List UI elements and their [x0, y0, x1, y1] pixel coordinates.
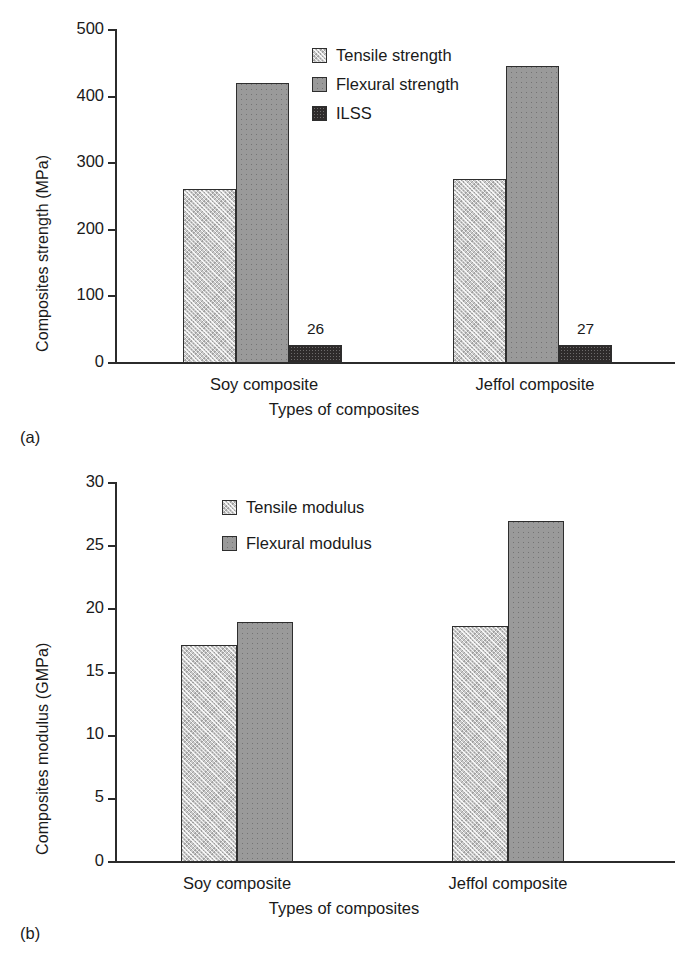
y-tick-0b — [108, 861, 116, 863]
y-tick-label-0b: 0 — [55, 851, 104, 870]
bar-value-label-soy-ilss: 26 — [289, 320, 342, 338]
bar-soy-flexural-modulus — [237, 622, 293, 862]
y-tick-300 — [108, 162, 116, 164]
bar-jeffol-flexural-modulus — [508, 521, 564, 862]
legend-label-ilss: ILSS — [336, 105, 372, 122]
y-axis-line-a — [115, 29, 117, 364]
bar-jeffol-ilss — [559, 345, 612, 363]
legend-item-flexural-strength[interactable]: Flexural strength — [312, 73, 459, 95]
figure-a-strength-chart: Composites strength (MPa) 500 400 300 20… — [0, 0, 688, 470]
bar-soy-tensile-modulus — [181, 645, 237, 862]
legend-a: Tensile strength Flexural strength ILSS — [312, 44, 459, 131]
bar-jeffol-tensile-strength — [453, 179, 506, 363]
y-tick-label-400: 400 — [50, 86, 104, 105]
y-tick-label-10: 10 — [55, 724, 104, 743]
x-category-label-soy-a: Soy composite — [180, 375, 348, 394]
bar-soy-ilss — [289, 345, 342, 363]
y-tick-label-15: 15 — [55, 661, 104, 680]
figure-b-modulus-chart: Composites modulus (GMPa) 30 25 20 15 10… — [0, 455, 688, 974]
legend-label-tensile-strength: Tensile strength — [336, 47, 452, 64]
legend-label-flexural-modulus: Flexural modulus — [246, 535, 372, 552]
x-category-label-soy-b: Soy composite — [153, 874, 321, 893]
y-tick-label-5: 5 — [55, 787, 104, 806]
panel-tag-b: (b) — [20, 924, 40, 943]
panel-tag-a: (a) — [20, 428, 40, 447]
y-tick-20 — [108, 608, 116, 610]
x-axis-title-a: Types of composites — [0, 400, 688, 419]
y-tick-label-0: 0 — [50, 352, 104, 371]
y-tick-30 — [108, 482, 116, 484]
legend-item-ilss[interactable]: ILSS — [312, 102, 459, 124]
y-tick-label-30: 30 — [55, 472, 104, 491]
bar-jeffol-flexural-strength — [506, 66, 559, 363]
legend-swatch-ilss — [312, 106, 327, 121]
legend-swatch-flexural-strength — [312, 77, 327, 92]
y-tick-200 — [108, 229, 116, 231]
y-tick-25 — [108, 545, 116, 547]
y-tick-100 — [108, 295, 116, 297]
legend-item-flexural-modulus[interactable]: Flexural modulus — [222, 532, 372, 554]
x-axis-title-b: Types of composites — [0, 899, 688, 918]
y-tick-15 — [108, 672, 116, 674]
legend-label-flexural-strength: Flexural strength — [336, 76, 459, 93]
y-tick-400 — [108, 96, 116, 98]
legend-item-tensile-modulus[interactable]: Tensile modulus — [222, 496, 372, 518]
y-tick-label-300: 300 — [50, 152, 104, 171]
bar-jeffol-tensile-modulus — [452, 626, 508, 862]
bar-soy-tensile-strength — [183, 189, 236, 363]
legend-label-tensile-modulus: Tensile modulus — [246, 499, 364, 516]
y-tick-10 — [108, 735, 116, 737]
y-tick-5 — [108, 798, 116, 800]
y-tick-500 — [108, 29, 116, 31]
legend-swatch-flexural-modulus — [222, 536, 237, 551]
y-tick-label-100: 100 — [50, 285, 104, 304]
x-category-label-jeffol-b: Jeffol composite — [420, 874, 596, 893]
legend-b: Tensile modulus Flexural modulus — [222, 496, 372, 561]
y-tick-label-25: 25 — [55, 535, 104, 554]
y-tick-label-20: 20 — [55, 598, 104, 617]
y-axis-title-a: Composites strength (MPa) — [34, 155, 52, 352]
y-tick-label-200: 200 — [50, 219, 104, 238]
y-tick-label-500: 500 — [50, 19, 104, 38]
y-axis-title-b: Composites modulus (GMPa) — [34, 643, 52, 855]
legend-swatch-tensile-modulus — [222, 500, 237, 515]
bar-value-label-jeffol-ilss: 27 — [559, 320, 612, 338]
legend-item-tensile-strength[interactable]: Tensile strength — [312, 44, 459, 66]
y-tick-0 — [108, 362, 116, 364]
bar-soy-flexural-strength — [236, 83, 289, 363]
x-category-label-jeffol-a: Jeffol composite — [447, 375, 623, 394]
legend-swatch-tensile-strength — [312, 48, 327, 63]
